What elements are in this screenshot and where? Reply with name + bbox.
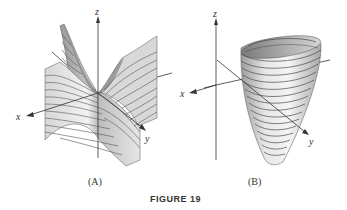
panel-b-z-axis-arrowhead bbox=[214, 18, 218, 25]
panel-b-label: (B) bbox=[248, 176, 261, 187]
figure-caption: FIGURE 19 bbox=[150, 194, 201, 204]
panel-b-x-axis-outer bbox=[193, 85, 216, 92]
panel-b-y-axis-label: y bbox=[308, 136, 314, 147]
panel-b-z-axis-label: z bbox=[212, 8, 217, 19]
panel-b-x-axis-label: x bbox=[179, 88, 185, 99]
panel-b-x-axis-arrowhead bbox=[189, 89, 197, 94]
panel-b-surface-plot: z x y bbox=[0, 0, 347, 175]
figure-19: z x y bbox=[0, 0, 347, 210]
panel-a-label: (A) bbox=[88, 176, 102, 187]
